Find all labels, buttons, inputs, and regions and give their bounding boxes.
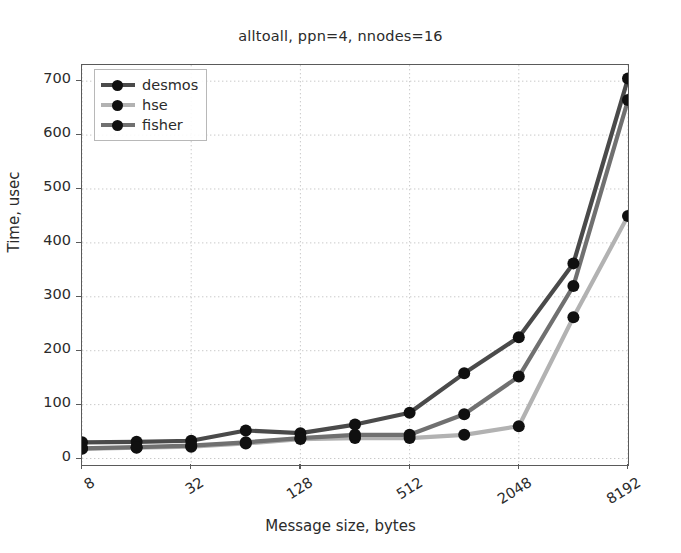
x-tick-mark xyxy=(627,464,628,469)
legend-marker-icon xyxy=(101,78,135,92)
x-axis-label: Message size, bytes xyxy=(0,517,681,535)
x-tick-label: 8192 xyxy=(588,474,644,517)
data-point-desmos xyxy=(240,425,252,437)
data-point-desmos xyxy=(622,72,628,84)
legend-marker-icon xyxy=(101,98,135,112)
data-point-fisher xyxy=(131,441,143,453)
legend-item-fisher[interactable]: fisher xyxy=(101,115,198,135)
x-tick-label: 32 xyxy=(151,474,207,517)
y-axis-label: Time, usec xyxy=(5,12,23,412)
data-point-fisher xyxy=(513,371,525,383)
legend-item-label: fisher xyxy=(142,118,183,132)
data-point-fisher xyxy=(294,432,306,444)
x-tick-mark xyxy=(409,464,410,469)
y-tick-mark xyxy=(76,188,81,189)
data-point-hse xyxy=(458,429,470,441)
legend-item-label: hse xyxy=(142,98,168,112)
y-tick-mark xyxy=(76,404,81,405)
legend-item-hse[interactable]: hse xyxy=(101,95,198,115)
y-tick-mark xyxy=(76,242,81,243)
x-tick-label: 8 xyxy=(42,474,98,517)
data-point-hse xyxy=(622,210,628,222)
y-tick-mark xyxy=(76,458,81,459)
chart-title: alltoall, ppn=4, nnodes=16 xyxy=(0,28,681,44)
x-tick-mark xyxy=(299,464,300,469)
data-point-fisher xyxy=(240,436,252,448)
y-tick-mark xyxy=(76,350,81,351)
y-tick-mark xyxy=(76,134,81,135)
series-line-fisher xyxy=(82,100,628,448)
x-tick-mark xyxy=(518,464,519,469)
data-point-desmos xyxy=(567,257,579,269)
data-point-desmos xyxy=(349,419,361,431)
legend-item-label: desmos xyxy=(142,78,198,92)
chart-legend: desmoshsefisher xyxy=(94,69,207,141)
y-tick-label: 0 xyxy=(9,448,71,464)
x-tick-label: 2048 xyxy=(478,474,534,517)
data-point-fisher xyxy=(404,429,416,441)
data-point-hse xyxy=(513,420,525,432)
data-point-hse xyxy=(567,311,579,323)
data-point-fisher xyxy=(567,280,579,292)
x-tick-mark xyxy=(81,464,82,469)
data-point-fisher xyxy=(349,429,361,441)
x-tick-label: 512 xyxy=(369,474,425,517)
x-tick-mark xyxy=(190,464,191,469)
legend-item-desmos[interactable]: desmos xyxy=(101,75,198,95)
data-point-desmos xyxy=(458,367,470,379)
chart-figure: alltoall, ppn=4, nnodes=16 0100200300400… xyxy=(0,0,681,553)
y-tick-mark xyxy=(76,80,81,81)
legend-marker-icon xyxy=(101,118,135,132)
data-point-fisher xyxy=(458,408,470,420)
x-tick-label: 128 xyxy=(260,474,316,517)
data-point-fisher xyxy=(185,440,197,452)
data-point-desmos xyxy=(404,407,416,419)
data-point-desmos xyxy=(513,331,525,343)
y-tick-mark xyxy=(76,296,81,297)
